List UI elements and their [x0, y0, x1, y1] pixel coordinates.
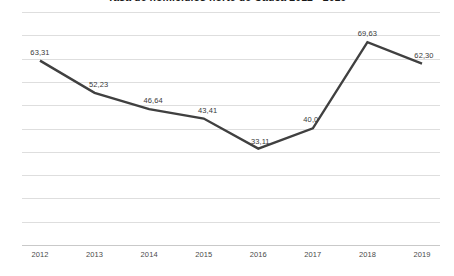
data-point-label: 40,0	[303, 115, 318, 124]
x-axis-tick-2013: 2013	[86, 250, 103, 259]
x-axis-tick-2012: 2012	[31, 250, 48, 259]
data-point-label: 33,11	[251, 137, 270, 146]
chart-title: Tasa de homicidios norte de Cauca 2012 -…	[0, 0, 454, 3]
data-point-label: 46,64	[144, 96, 163, 105]
data-point-label: 43,41	[198, 106, 217, 115]
data-point-label: 52,23	[89, 80, 108, 89]
line-chart: Tasa de homicidios norte de Cauca 2012 -…	[0, 0, 454, 276]
x-axis-tick-2019: 2019	[413, 250, 430, 259]
x-axis-tick-2017: 2017	[304, 250, 321, 259]
data-point-label: 62,30	[414, 51, 433, 60]
series-line	[22, 12, 440, 245]
x-axis-tick-labels: 20122013201420152016201720182019	[22, 250, 440, 266]
series-polyline	[40, 42, 422, 148]
x-axis-tick-2014: 2014	[141, 250, 158, 259]
data-point-label: 69,63	[358, 29, 377, 38]
data-point-label: 63,31	[30, 48, 49, 57]
x-axis-tick-2015: 2015	[195, 250, 212, 259]
x-axis-tick-2018: 2018	[359, 250, 376, 259]
gridline	[22, 245, 440, 246]
x-axis-tick-2016: 2016	[250, 250, 267, 259]
plot-area: 63,3152,2346,6443,4133,1140,069,6362,30	[22, 12, 440, 245]
